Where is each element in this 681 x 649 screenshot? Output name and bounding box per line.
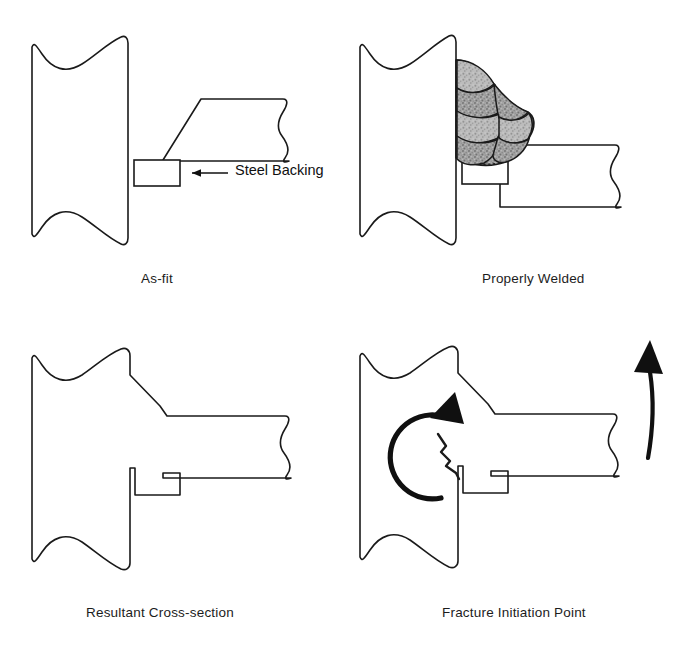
caption-fracture-initiation-point: Fracture Initiation Point	[442, 605, 586, 620]
resultant-outline	[32, 348, 291, 569]
panel-as-fit	[32, 36, 289, 244]
steel-backing-label: Steel Backing	[235, 162, 324, 178]
caption-as-fit: As-fit	[141, 271, 173, 286]
column-outline-asfit	[32, 36, 128, 244]
fracture-outline	[360, 346, 619, 567]
weld-pass-1	[457, 60, 494, 93]
welded-connection-figure	[0, 0, 681, 649]
uplift-arrow	[634, 340, 663, 458]
panel-resultant-cross-section	[32, 348, 291, 569]
panel-fracture-initiation-point	[360, 340, 663, 568]
steel-backing-bar-asfit	[134, 160, 180, 186]
weld-bead-group	[456, 60, 534, 165]
panel-properly-welded	[360, 35, 621, 244]
caption-properly-welded: Properly Welded	[482, 271, 585, 286]
column-outline-welded	[360, 35, 456, 244]
beam-outline-asfit	[163, 99, 289, 162]
weld-pass-5	[494, 84, 528, 120]
caption-resultant-cross-section: Resultant Cross-section	[86, 605, 234, 620]
